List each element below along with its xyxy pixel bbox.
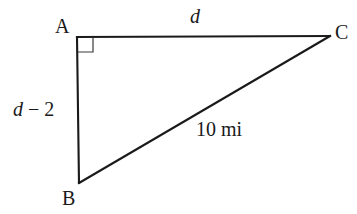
side-label-ab-variable: d — [13, 98, 23, 120]
segment-bc — [79, 36, 330, 183]
vertex-label-c: C — [335, 22, 348, 42]
side-label-bc: 10 mi — [196, 119, 242, 139]
side-label-ac-variable: d — [190, 5, 200, 27]
figure-canvas: A B C d d − 2 10 mi — [0, 0, 357, 214]
side-label-ac: d — [190, 6, 200, 26]
side-label-bc-suffix: 10 mi — [196, 118, 242, 140]
vertex-label-b: B — [62, 188, 75, 208]
right-angle-icon — [78, 38, 93, 52]
side-label-ab: d − 2 — [13, 99, 54, 119]
side-label-ab-suffix: − 2 — [23, 98, 54, 120]
segment-ac — [77, 36, 330, 37]
segment-ab — [77, 37, 79, 183]
vertex-label-a: A — [55, 16, 69, 36]
